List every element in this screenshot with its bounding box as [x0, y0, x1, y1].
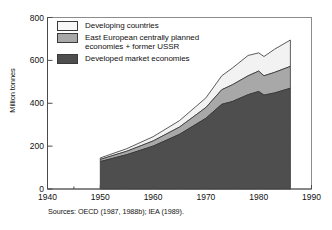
x-tick-label-1980: 1980 [249, 192, 268, 202]
legend-item-developed: Developed market economies [57, 54, 237, 64]
legend-label-east-european: East European centrally planned economie… [85, 33, 199, 51]
x-tick-label-1940: 1940 [38, 192, 57, 202]
x-axis-tick-labels: 194019501960197019801990 [0, 192, 332, 206]
y-tick-label-400: 400 [30, 98, 44, 108]
legend-label-developed: Developed market economies [85, 54, 190, 63]
x-tick-label-1970: 1970 [196, 192, 215, 202]
y-tick-label-600: 600 [30, 55, 44, 65]
legend-swatch-east-european [57, 33, 78, 43]
x-tick-label-1950: 1950 [91, 192, 110, 202]
legend-item-east-european: East European centrally planned economie… [57, 33, 237, 51]
legend-swatch-developed [57, 54, 78, 64]
legend-label-developing: Developing countries [85, 21, 159, 30]
legend-swatch-developing [57, 21, 78, 31]
chart-legend: Developing countries East European centr… [57, 21, 237, 66]
source-note: Sources: OECD (1987, 1988b); IEA (1989). [48, 207, 184, 216]
y-tick-label-800: 800 [30, 13, 44, 23]
x-tick-label-1990: 1990 [302, 192, 321, 202]
y-tick-label-200: 200 [30, 141, 44, 151]
chart-figure: Million tonnes 0200400600800 19401950196… [0, 0, 332, 230]
x-tick-label-1960: 1960 [144, 192, 163, 202]
legend-item-developing: Developing countries [57, 21, 237, 31]
